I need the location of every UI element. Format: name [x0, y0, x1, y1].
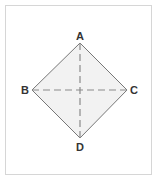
vertex-label-d: D	[76, 141, 84, 153]
vertex-label-a: A	[76, 30, 84, 42]
vertex-label-c: C	[130, 84, 138, 96]
vertex-label-b: B	[21, 84, 29, 96]
square-diagram: A B C D	[0, 0, 161, 182]
